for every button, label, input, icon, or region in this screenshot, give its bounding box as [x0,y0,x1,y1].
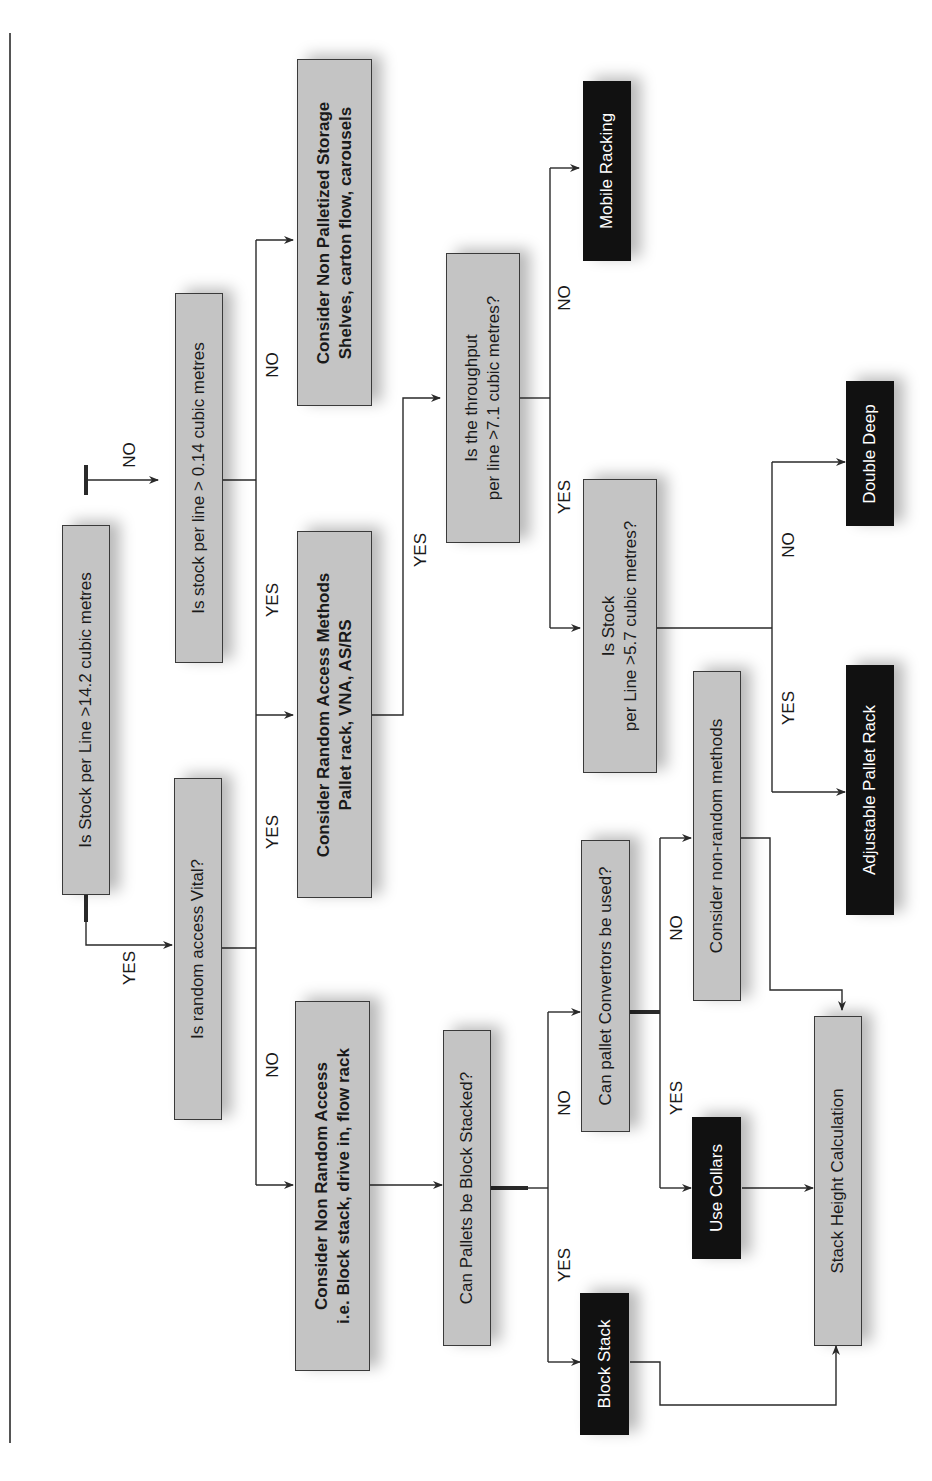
edge-label-no-stock57: NO [779,532,799,558]
node-stock-over-14-2: Is Stock per Line >14.2 cubic metres [62,525,110,895]
node-text-line-1: Consider Random Access Methods [313,572,335,857]
node-text-line-1: Consider Non Palletized Storage [313,101,335,364]
node-stock-over-0-14: Is stock per line > 0.14 cubic metres [175,293,223,663]
edge-label-no-throughput: NO [555,285,575,311]
edge-label-no-block-stacked: NO [555,1090,575,1116]
node-pallet-convertors: Can pallet Convertors be used? [581,840,630,1132]
node-adjustable-pallet-rack: Adjustable Pallet Rack [846,665,894,915]
node-text: Is random access Vital? [187,859,209,1039]
node-text: Double Deep [859,404,881,503]
edge-label-no-stock14: NO [120,442,140,468]
node-block-stacked: Can Pallets be Block Stacked? [443,1030,491,1346]
node-text-line-2: i.e. Block stack, drive in, flow rack [333,1048,355,1324]
edge-label-no-random-vital: NO [263,1052,283,1078]
edge-label-no-convertors: NO [667,915,687,941]
node-text: Stack Height Calculation [827,1088,849,1273]
node-text: Can pallet Convertors be used? [595,866,617,1105]
node-text-line-1: Is Stock [598,521,620,731]
node-double-deep: Double Deep [846,381,894,526]
node-throughput-over-7-1: Is the throughput per line >7.1 cubic me… [446,253,520,543]
node-random-access-methods: Consider Random Access Methods Pallet ra… [297,531,372,898]
node-text-line-1: Is the throughput [461,296,483,501]
node-text-line-2: per line >7.1 cubic metres? [483,296,505,501]
node-text: Block Stack [594,1320,616,1409]
node-text: Is Stock per Line >14.2 cubic metres [75,572,97,847]
node-text: Is stock per line > 0.14 cubic metres [188,342,210,614]
edge-label-yes-block-stacked: YES [555,1248,575,1282]
node-random-access-vital: Is random access Vital? [174,778,222,1120]
edge-label-yes-random-vital: YES [263,815,283,849]
node-stock-over-5-7: Is Stock per Line >5.7 cubic metres? [583,479,657,773]
node-consider-non-random-methods: Consider non-random methods [693,671,741,1001]
node-use-collars: Use Collars [692,1117,741,1259]
node-block-stack: Block Stack [580,1293,629,1435]
node-non-palletized-storage: Consider Non Palletized Storage Shelves,… [297,59,372,406]
edge-label-yes-convertors: YES [667,1081,687,1115]
node-text-line-2: Pallet rack, VNA, AS/RS [335,572,357,857]
node-stack-height-calculation: Stack Height Calculation [814,1016,862,1346]
node-text-line-1: Consider Non Random Access [311,1048,333,1324]
edge-label-yes-throughput: YES [555,480,575,514]
node-text: Use Collars [706,1144,728,1232]
node-text: Adjustable Pallet Rack [859,705,881,875]
edge-label-yes-random-access: YES [411,533,431,567]
edge-label-yes-stock14: YES [120,951,140,985]
edge-label-yes-stock014: YES [263,583,283,617]
node-text-line-2: Shelves, carton flow, carousels [335,101,357,364]
edge-label-yes-stock57: YES [779,691,799,725]
node-text: Consider non-random methods [706,719,728,953]
node-mobile-racking: Mobile Racking [583,81,631,261]
node-text: Can Pallets be Block Stacked? [456,1072,478,1304]
flowchart-canvas: Is Stock per Line >14.2 cubic metres Is … [0,0,932,1481]
node-non-random-access: Consider Non Random Access i.e. Block st… [295,1001,370,1371]
node-text: Mobile Racking [596,113,618,229]
node-text-line-2: per Line >5.7 cubic metres? [620,521,642,731]
edge-label-no-stock014: NO [263,352,283,378]
